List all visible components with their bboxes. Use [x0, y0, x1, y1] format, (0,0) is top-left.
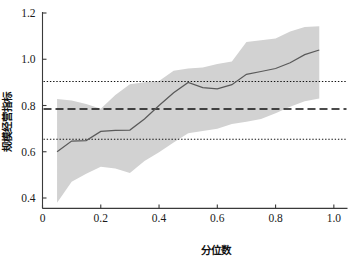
x-axis-title: 分位数	[201, 244, 232, 256]
y-tick-label: 0.6	[21, 146, 36, 158]
confidence-interval-band	[57, 26, 319, 202]
x-tick-label: 1.0	[327, 212, 342, 224]
quantile-regression-chart: 00.20.40.60.81.0 0.40.60.81.01.2 分位数 规模经…	[0, 0, 359, 265]
y-tick-label: 0.4	[21, 192, 36, 204]
confidence-band-group	[57, 26, 319, 202]
x-tick-label: 0.8	[268, 212, 283, 224]
x-axis-ticks: 00.20.40.60.81.0	[40, 204, 342, 224]
x-tick-label: 0.6	[210, 212, 225, 224]
y-tick-label: 1.0	[21, 53, 36, 65]
chart-canvas: 00.20.40.60.81.0 0.40.60.81.01.2 分位数 规模经…	[0, 0, 359, 265]
y-axis-title: 规模经营指标	[1, 91, 13, 152]
x-tick-label: 0	[40, 212, 46, 224]
x-tick-label: 0.4	[152, 212, 167, 224]
y-tick-label: 0.8	[21, 100, 36, 112]
x-tick-label: 0.2	[94, 212, 109, 224]
y-tick-label: 1.2	[21, 7, 36, 19]
